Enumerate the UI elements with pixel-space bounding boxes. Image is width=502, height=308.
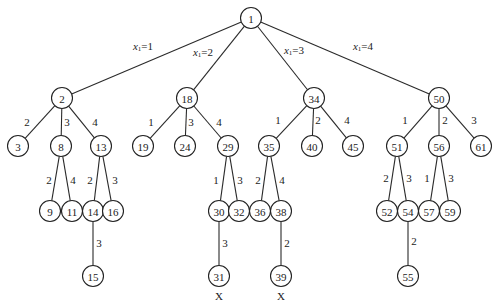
tree-node-3: 3 [8,136,29,157]
edge-29-30 [220,156,226,200]
edge-label-54-55: 2 [411,235,417,247]
edge-label-34-40: 2 [315,114,321,126]
tree-node-61: 61 [471,136,492,157]
edge-label-29-32: 3 [237,174,243,186]
edge-label-1-18: x1=2 [192,46,213,59]
pruned-mark-31: X [215,290,223,302]
node-label: 61 [476,141,487,153]
state-space-tree: x1=1x1=2x1=3x1=4234134124123242313242313… [0,0,502,308]
node-label: 29 [223,141,235,153]
node-label: 56 [434,141,446,153]
node-label: 57 [424,206,436,218]
node-label: 54 [403,206,415,218]
node-label: 38 [276,206,288,218]
tree-node-56: 56 [429,136,450,157]
edge-label-35-36: 2 [255,174,261,186]
tree-node-40: 40 [302,136,323,157]
tree-node-35: 35 [259,136,280,157]
node-label: 36 [255,206,267,218]
tree-node-13: 13 [91,136,112,157]
edge-label-13-14: 2 [87,174,93,186]
edge-label-34-45: 4 [344,114,350,126]
marks-layer: XX [215,290,285,302]
edge-label-34-35: 1 [275,114,281,126]
edge-29-32 [230,156,237,200]
edge-8-9 [52,156,59,200]
tree-node-1: 1 [241,8,262,29]
node-label: 14 [88,206,100,218]
edge-label-2-13: 4 [92,116,98,128]
edge-label-13-16: 3 [112,174,118,186]
node-label: 34 [309,93,321,105]
tree-node-8: 8 [51,136,72,157]
edge-1-2 [72,22,242,94]
edge-51-52 [389,156,396,200]
node-label: 45 [348,141,360,153]
edge-label-14-15: 3 [96,237,102,249]
node-label: 8 [58,141,64,153]
tree-node-24: 24 [175,136,196,157]
node-label: 59 [445,206,457,218]
edge-34-40 [312,108,313,135]
edge-label-51-54: 3 [406,172,412,184]
pruned-mark-39: X [277,290,285,302]
edge-label-51-52: 2 [383,172,389,184]
edge-label-56-57: 1 [424,172,430,184]
edge-2-13 [69,106,95,138]
node-label: 35 [264,141,276,153]
node-label: 39 [276,271,288,283]
edge-label-2-3: 2 [24,116,30,128]
node-label: 32 [234,206,245,218]
node-label: 2 [59,93,65,105]
edge-50-61 [446,106,474,138]
tree-node-54: 54 [398,201,419,222]
node-label: 19 [138,141,150,153]
edge-label-29-30: 1 [213,174,219,186]
tree-node-29: 29 [218,136,239,157]
edge-56-57 [431,156,438,200]
tree-node-11: 11 [62,201,83,222]
edge-1-34 [257,26,307,90]
edge-label-50-51: 1 [402,114,408,126]
tree-node-30: 30 [209,201,230,222]
edge-label-50-56: 2 [442,114,448,126]
edge-35-36 [261,156,267,200]
edge-label-1-50: x1=4 [352,40,374,53]
edge-35-38 [271,156,279,200]
tree-node-39: 39 [271,266,292,287]
node-label: 1 [248,13,254,25]
tree-node-19: 19 [133,136,154,157]
edge-label-38-39: 2 [284,237,290,249]
edge-13-16 [103,156,111,200]
tree-node-32: 32 [229,201,250,222]
edge-34-35 [276,106,307,139]
tree-node-55: 55 [398,266,419,287]
node-label: 18 [182,93,194,105]
edge-1-50 [261,22,430,94]
edge-label-1-34: x1=3 [283,44,305,57]
node-label: 16 [108,206,120,218]
edge-51-54 [399,156,406,200]
tree-node-38: 38 [271,201,292,222]
tree-node-45: 45 [343,136,364,157]
edge-2-8 [61,108,62,135]
node-label: 51 [392,141,403,153]
node-label: 50 [434,93,446,105]
tree-node-52: 52 [377,201,398,222]
edge-13-14 [94,156,99,200]
edge-label-8-11: 4 [70,174,76,186]
edge-18-19 [150,106,180,139]
node-label: 9 [47,206,53,218]
tree-node-51: 51 [387,136,408,157]
tree-node-50: 50 [429,88,450,109]
edge-label-30-31: 3 [222,237,228,249]
edge-50-51 [404,106,432,138]
tree-node-34: 34 [304,88,325,109]
edge-label-8-9: 2 [46,174,52,186]
edge-label-35-38: 4 [279,174,285,186]
edge-label-18-19: 1 [148,116,154,128]
edge-label-1-2: x1=1 [132,40,153,53]
edge-label-2-8: 3 [64,116,70,128]
edge-34-45 [321,106,347,138]
node-label: 31 [214,271,225,283]
